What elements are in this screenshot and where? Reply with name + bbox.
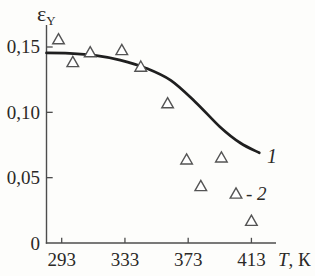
data-point-triangle [53, 34, 65, 44]
chart-canvas: 293333373413 00,050,100,15 εY T, К 1 - 2 [0, 0, 315, 276]
epsilon-subscript: Y [46, 13, 56, 28]
x-tick-label: 333 [111, 249, 140, 270]
epsilon-symbol: ε [37, 1, 46, 26]
x-tick-label: 373 [174, 249, 203, 270]
y-tick-label: 0,10 [7, 102, 40, 123]
data-point-triangle [216, 152, 228, 162]
curve-label: 1 [267, 145, 277, 167]
x-tick-label: 413 [237, 249, 266, 270]
data-point-triangle [246, 215, 258, 225]
legend-label: - 2 [246, 183, 267, 204]
x-axis-title: T, К [278, 249, 311, 270]
data-point-triangle [181, 154, 193, 164]
scatter-markers-series2 [53, 34, 258, 226]
data-point-triangle [162, 98, 174, 108]
data-point-triangle [116, 44, 128, 54]
data-point-triangle [84, 47, 96, 57]
y-tick-label: 0,05 [7, 167, 40, 188]
x-tick-label: 293 [47, 249, 76, 270]
trend-curve-series1 [47, 53, 260, 153]
x-axis-unit: , К [289, 249, 312, 270]
legend: - 2 [230, 183, 267, 204]
legend-triangle-icon [230, 188, 242, 198]
data-point-triangle [195, 180, 207, 190]
y-tick-label: 0 [31, 233, 41, 254]
data-point-triangle [67, 56, 79, 66]
y-tick-label: 0,15 [7, 36, 40, 57]
chart-figure: 293333373413 00,050,100,15 εY T, К 1 - 2 [0, 0, 315, 276]
y-axis-title: εY [37, 1, 56, 28]
